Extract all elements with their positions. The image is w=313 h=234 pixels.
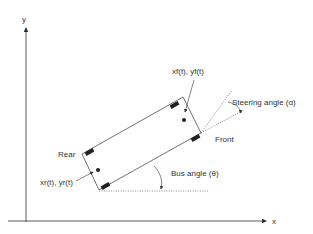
steering-angle-label: Steering angle (α) xyxy=(232,98,296,107)
front-label: Front xyxy=(215,135,234,144)
front-position-pointer xyxy=(185,80,194,112)
rear-right-wheel xyxy=(101,182,111,190)
front-position-label: xf(t), yf(t) xyxy=(172,67,204,76)
y-axis-label: y xyxy=(22,15,26,24)
rear-label: Rear xyxy=(58,150,76,159)
front-axle-point xyxy=(182,118,186,122)
heading-extension-line xyxy=(201,110,244,133)
rear-position-label: xr(t), yr(t) xyxy=(40,178,73,187)
rear-axle-point xyxy=(96,168,100,172)
front-left-wheel xyxy=(170,101,180,109)
front-right-wheel xyxy=(191,134,201,142)
bus-angle-arc xyxy=(154,166,162,189)
rear-position-pointer xyxy=(76,172,93,181)
x-axis-label: x xyxy=(272,217,276,226)
steering-direction-line xyxy=(201,90,232,133)
rear-left-wheel xyxy=(85,148,95,156)
bus-angle-label: Bus angle (θ) xyxy=(171,169,219,178)
bus-kinematics-diagram: y x xf(t), yf(t) xr(t), yr(t) Steering a… xyxy=(0,0,313,234)
